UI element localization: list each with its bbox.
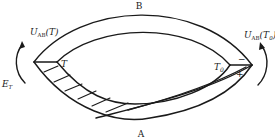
conductor-b-outer — [34, 15, 252, 65]
conductor-a-inner — [57, 62, 230, 104]
arrow-head-left — [19, 41, 25, 49]
thermocouple-diagram: B A T T0 UAB(T) UAB(T0) ET − + — [0, 0, 275, 140]
conductor-b-inner — [57, 32, 230, 65]
label-cold-t0: T0 — [214, 62, 224, 73]
label-b: B — [136, 1, 143, 11]
emf-arrow-right — [258, 46, 267, 85]
polarity-minus: − — [238, 54, 246, 64]
conductor-a-lens — [96, 65, 252, 118]
label-hot-t: T — [61, 59, 68, 69]
label-uab-t: UAB(T) — [30, 27, 59, 38]
polarity-plus: + — [236, 69, 244, 79]
label-et: ET — [1, 79, 13, 90]
label-uab-t0: UAB(T0) — [244, 30, 275, 41]
emf-arrow-left — [16, 45, 25, 83]
label-a: A — [137, 129, 145, 139]
